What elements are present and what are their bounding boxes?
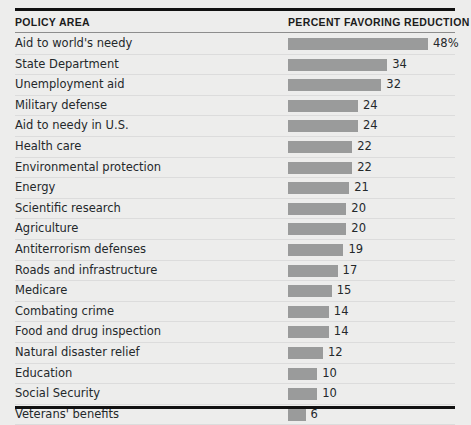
bar: [288, 265, 338, 277]
bar-value-label: 17: [343, 263, 358, 277]
bar: [288, 38, 428, 50]
table-row: State Department34: [15, 55, 455, 76]
table-row: Medicare15: [15, 281, 455, 302]
table-row: Social Security10: [15, 384, 455, 405]
policy-area-label: Agriculture: [15, 221, 78, 235]
table-row: Health care22: [15, 137, 455, 158]
bar-value-label: 14: [334, 304, 349, 318]
policy-area-label: Military defense: [15, 98, 107, 112]
policy-area-label: Antiterrorism defenses: [15, 242, 146, 256]
bar: [288, 79, 381, 91]
policy-area-label: Roads and infrastructure: [15, 263, 157, 277]
table-row: Agriculture20: [15, 219, 455, 240]
bar: [288, 326, 329, 338]
policy-area-label: Natural disaster relief: [15, 345, 140, 359]
bar-value-label: 24: [363, 98, 378, 112]
bar-value-label: 15: [337, 283, 352, 297]
bar: [288, 285, 332, 297]
bar-value-label: 20: [351, 221, 366, 235]
table-row: Food and drug inspection14: [15, 322, 455, 343]
bar-value-label: 10: [322, 366, 337, 380]
bar: [288, 120, 358, 132]
bar-value-label: 24: [363, 118, 378, 132]
bar-value-label: 12: [328, 345, 343, 359]
bar: [288, 141, 352, 153]
bar-value-label: 21: [354, 180, 369, 194]
policy-area-label: Environmental protection: [15, 160, 161, 174]
table-row: Military defense24: [15, 96, 455, 117]
bar-value-label: 32: [386, 77, 401, 91]
bar-value-label: 48%: [433, 36, 459, 50]
bar: [288, 388, 317, 400]
bar: [288, 347, 323, 359]
table-row: Energy21: [15, 178, 455, 199]
bar: [288, 306, 329, 318]
bar: [288, 244, 343, 256]
table-row: Education10: [15, 364, 455, 385]
bar: [288, 203, 346, 215]
policy-area-label: Medicare: [15, 283, 67, 297]
bar: [288, 409, 306, 421]
policy-area-label: Education: [15, 366, 72, 380]
bar-value-label: 34: [392, 57, 407, 71]
bar: [288, 223, 346, 235]
table-row: Environmental protection22: [15, 158, 455, 179]
policy-area-label: Aid to world's needy: [15, 36, 132, 50]
policy-area-label: Unemployment aid: [15, 77, 125, 91]
table-row: Aid to world's needy48%: [15, 34, 455, 55]
table-row: Aid to needy in U.S.24: [15, 116, 455, 137]
policy-area-label: Social Security: [15, 386, 100, 400]
bottom-rule: [15, 406, 455, 409]
policy-area-label: Aid to needy in U.S.: [15, 118, 129, 132]
table-row: Unemployment aid32: [15, 75, 455, 96]
policy-area-label: Health care: [15, 139, 81, 153]
bar-value-label: 20: [351, 201, 366, 215]
table-row: Roads and infrastructure17: [15, 261, 455, 282]
bar: [288, 182, 349, 194]
policy-area-label: Combating crime: [15, 304, 114, 318]
table-row: Antiterrorism defenses19: [15, 240, 455, 261]
table-row: Combating crime14: [15, 302, 455, 323]
policy-area-label: Energy: [15, 180, 55, 194]
bar: [288, 162, 352, 174]
bar: [288, 100, 358, 112]
table-row: Scientific research20: [15, 199, 455, 220]
bar: [288, 59, 387, 71]
policy-area-label: Scientific research: [15, 201, 121, 215]
policy-area-label: State Department: [15, 57, 119, 71]
bar-value-label: 14: [334, 324, 349, 338]
table-row: Natural disaster relief12: [15, 343, 455, 364]
bar: [288, 368, 317, 380]
bar-value-label: 10: [322, 386, 337, 400]
bar-value-label: 22: [357, 160, 372, 174]
bar-value-label: 19: [348, 242, 363, 256]
bar-value-label: 22: [357, 139, 372, 153]
policy-area-label: Food and drug inspection: [15, 324, 161, 338]
